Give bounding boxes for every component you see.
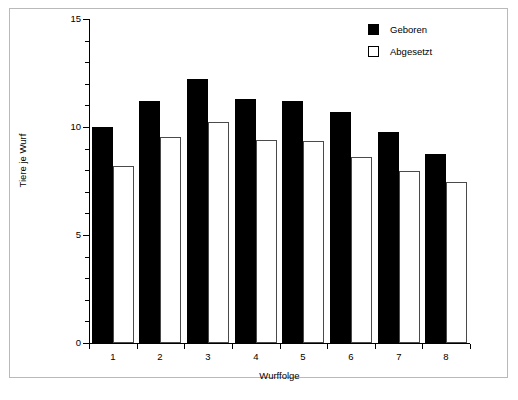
legend-label-abgesetzt: Abgesetzt — [390, 46, 432, 57]
x-tick — [470, 344, 471, 349]
x-tick — [375, 344, 376, 349]
x-axis-title: Wurffolge — [89, 370, 470, 381]
y-tick-minor — [85, 300, 89, 301]
bar-geboren-2 — [139, 101, 160, 343]
y-axis-line — [89, 19, 90, 344]
y-tick-minor — [85, 213, 89, 214]
y-tick-label-wrap: 10 — [50, 122, 81, 132]
legend-label-geboren: Geboren — [390, 24, 427, 35]
bar-geboren-5 — [282, 101, 303, 343]
x-tick-label: 4 — [241, 351, 271, 362]
x-tick-label: 8 — [431, 351, 461, 362]
x-tick — [280, 344, 281, 349]
x-tick — [184, 344, 185, 349]
x-tick-label: 2 — [145, 351, 175, 362]
y-tick-label-wrap: 0 — [50, 338, 81, 348]
bar-geboren-8 — [425, 154, 446, 343]
y-axis-title: Tiere je Wurf — [17, 111, 28, 211]
y-tick-minor — [85, 105, 89, 106]
x-tick — [422, 344, 423, 349]
y-tick-minor — [85, 278, 89, 279]
bar-abgesetzt-4 — [256, 140, 277, 343]
legend-item-geboren: Geboren — [368, 18, 488, 40]
x-tick — [232, 344, 233, 349]
legend-swatch-geboren-icon — [368, 24, 379, 35]
y-tick-label: 10 — [55, 122, 81, 132]
bar-abgesetzt-3 — [208, 122, 229, 343]
bar-abgesetzt-2 — [160, 137, 181, 343]
bar-geboren-6 — [330, 112, 351, 343]
x-tick-label: 5 — [288, 351, 318, 362]
x-tick-label: 7 — [384, 351, 414, 362]
y-tick-minor — [85, 170, 89, 171]
bar-abgesetzt-8 — [446, 182, 467, 343]
chart-legend: Geboren Abgesetzt — [368, 18, 488, 62]
legend-item-abgesetzt: Abgesetzt — [368, 40, 488, 62]
y-tick-minor — [85, 41, 89, 42]
bar-geboren-4 — [235, 99, 256, 343]
bar-abgesetzt-1 — [113, 166, 134, 343]
y-tick-minor — [85, 62, 89, 63]
x-tick — [89, 344, 90, 349]
bar-geboren-3 — [187, 79, 208, 343]
y-tick-label-wrap: 5 — [50, 230, 81, 240]
y-tick-minor — [85, 257, 89, 258]
y-tick-minor — [85, 321, 89, 322]
bar-abgesetzt-7 — [399, 171, 420, 343]
y-tick-major — [83, 127, 89, 128]
y-tick-label-wrap: 15 — [50, 14, 81, 24]
bar-geboren-1 — [92, 127, 113, 343]
x-tick — [327, 344, 328, 349]
y-tick-label: 5 — [55, 230, 81, 240]
legend-swatch-abgesetzt-icon — [368, 46, 379, 57]
bar-abgesetzt-6 — [351, 157, 372, 343]
bar-chart-plot: 051015 12345678 Wurffolge Tiere je Wurf … — [0, 0, 518, 400]
x-tick-label: 1 — [98, 351, 128, 362]
y-tick-major — [83, 235, 89, 236]
x-tick-label: 6 — [336, 351, 366, 362]
y-tick-label: 0 — [55, 338, 81, 348]
y-tick-minor — [85, 84, 89, 85]
bar-geboren-7 — [378, 132, 399, 343]
x-tick-label: 3 — [193, 351, 223, 362]
y-tick-major — [83, 19, 89, 20]
y-tick-minor — [85, 149, 89, 150]
x-tick — [137, 344, 138, 349]
y-tick-minor — [85, 192, 89, 193]
bar-abgesetzt-5 — [303, 141, 324, 343]
y-tick-label: 15 — [55, 14, 81, 24]
